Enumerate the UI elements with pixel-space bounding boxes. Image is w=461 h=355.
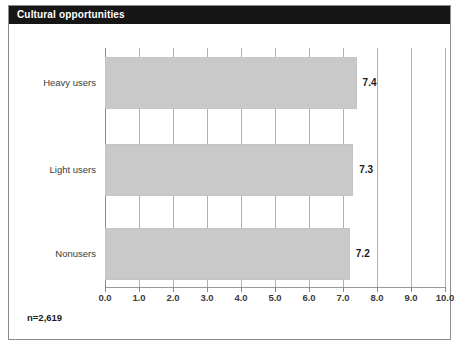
chart-figure: Cultural opportunities 0.01.02.03.04.05.… bbox=[0, 0, 461, 355]
x-tick-label: 7.0 bbox=[336, 292, 349, 303]
x-tick-label: 4.0 bbox=[234, 292, 247, 303]
x-tick-label: 2.0 bbox=[166, 292, 179, 303]
x-tick-label: 6.0 bbox=[302, 292, 315, 303]
x-tick-label: 9.0 bbox=[404, 292, 417, 303]
category-label: Heavy users bbox=[43, 77, 96, 88]
bar bbox=[105, 144, 353, 196]
x-tick-label: 0.0 bbox=[98, 292, 111, 303]
bar-value-label: 7.2 bbox=[356, 248, 370, 259]
x-tick-label: 10.0 bbox=[436, 292, 455, 303]
gridline bbox=[445, 48, 446, 287]
gridline bbox=[377, 48, 378, 287]
x-tick-label: 8.0 bbox=[370, 292, 383, 303]
bar-value-label: 7.3 bbox=[359, 164, 373, 175]
panel-title-bar: Cultural opportunities bbox=[9, 6, 450, 24]
gridline bbox=[411, 48, 412, 287]
category-label: Nonusers bbox=[55, 248, 96, 259]
x-tick-label: 5.0 bbox=[268, 292, 281, 303]
bar bbox=[105, 228, 350, 280]
bar-value-label: 7.4 bbox=[363, 77, 377, 88]
x-tick-label: 3.0 bbox=[200, 292, 213, 303]
x-tick-label: 1.0 bbox=[132, 292, 145, 303]
category-label: Light users bbox=[50, 164, 96, 175]
bar bbox=[105, 57, 357, 109]
sample-size-note: n=2,619 bbox=[27, 312, 62, 323]
page-title: Cultural opportunities bbox=[9, 10, 125, 20]
